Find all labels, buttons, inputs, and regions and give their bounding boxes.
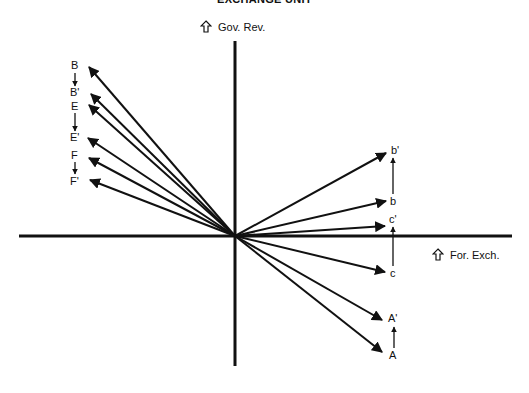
label-Bp: B'	[70, 87, 79, 98]
vector-bp	[235, 153, 386, 236]
label-bp: b'	[391, 145, 399, 156]
label-b: b	[390, 196, 396, 207]
for-exch-axis-label: For. Exch.	[432, 248, 500, 261]
label-Ap: A'	[388, 313, 397, 324]
for-exch-label: For. Exch.	[450, 249, 500, 261]
label-B: B	[71, 60, 78, 71]
gov-rev-axis-label: Gov. Rev.	[200, 20, 265, 33]
vector-diagram	[0, 0, 529, 393]
outline-up-arrow-icon	[432, 248, 444, 261]
label-E: E	[71, 101, 78, 112]
outline-up-arrow-icon	[200, 20, 212, 33]
label-A: A	[389, 350, 396, 361]
vector-Ap	[235, 236, 382, 320]
label-cp: c'	[389, 214, 397, 225]
label-Fp: F'	[70, 176, 79, 187]
gov-rev-label: Gov. Rev.	[218, 21, 265, 33]
vector-Bp	[91, 94, 235, 236]
label-Ep: E'	[70, 132, 79, 143]
label-c: c	[390, 268, 396, 279]
label-F: F	[71, 150, 78, 161]
vector-B	[89, 67, 235, 236]
